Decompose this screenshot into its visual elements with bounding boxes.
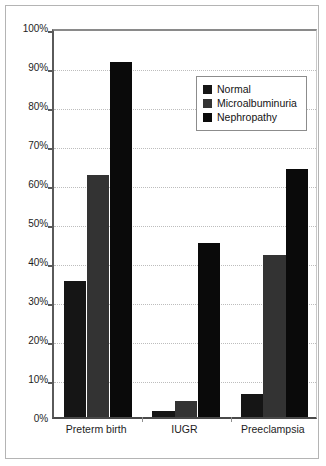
chart-frame: 0%10%20%30%40%50%60%70%80%90%100% Preter…: [5, 5, 319, 459]
legend-swatch-icon: [203, 99, 212, 108]
legend-label: Normal: [217, 84, 251, 95]
y-axis-tick-label: 80%: [8, 102, 48, 112]
x-axis-tick-label: Preeclampsia: [229, 422, 317, 436]
bar: [198, 243, 220, 417]
chart-legend: NormalMicroalbuminuriaNephropathy: [196, 76, 307, 131]
y-axis-tick-label: 0%: [8, 414, 48, 424]
legend-label: Nephropathy: [217, 112, 277, 123]
legend-item: Normal: [203, 83, 297, 96]
x-axis-tick-label: Preterm birth: [52, 422, 140, 436]
bar: [87, 175, 109, 417]
legend-item: Nephropathy: [203, 111, 297, 124]
legend-swatch-icon: [203, 113, 212, 122]
bar: [175, 401, 197, 417]
bar: [263, 255, 285, 417]
y-axis-tick-label: 30%: [8, 297, 48, 307]
bar: [241, 394, 263, 417]
x-axis-tick-label: IUGR: [140, 422, 228, 436]
bar: [64, 281, 86, 418]
y-axis-tick-label: 60%: [8, 180, 48, 190]
legend-label: Microalbuminuria: [217, 98, 297, 109]
x-axis-tick-labels: Preterm birthIUGRPreeclampsia: [52, 422, 317, 442]
y-axis-tick-label: 70%: [8, 141, 48, 151]
bar: [152, 411, 174, 417]
legend-swatch-icon: [203, 85, 212, 94]
y-axis-tick-label: 100%: [8, 24, 48, 34]
legend-item: Microalbuminuria: [203, 97, 297, 110]
y-axis-tick-label: 20%: [8, 336, 48, 346]
y-axis-tick-label: 40%: [8, 258, 48, 268]
bar: [110, 62, 132, 417]
y-axis-tick-label: 50%: [8, 219, 48, 229]
bar: [286, 169, 308, 417]
y-axis-tick-labels: 0%10%20%30%40%50%60%70%80%90%100%: [6, 6, 48, 466]
y-axis-tick-label: 90%: [8, 63, 48, 73]
y-axis-tick-label: 10%: [8, 375, 48, 385]
